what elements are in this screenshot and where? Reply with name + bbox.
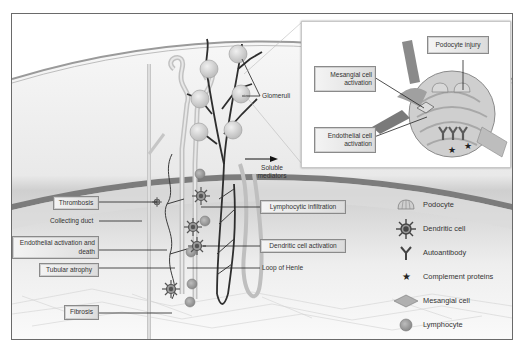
legend-item-complement-proteins: Complement proteins (423, 272, 493, 281)
dendritic-cell-activation-text: Dendritic cell activation (269, 242, 336, 250)
label-dendritic-cell-activation: Dendritic cell activation (260, 239, 346, 253)
mesangial-cell-activation-text: Mesangial cell activation (318, 71, 372, 87)
label-soluble-mediators: Soluble mediators (252, 164, 292, 180)
legend-item-podocyte: Podocyte (423, 200, 454, 209)
endothelial-activation-death-text: Endothelial activation and death (16, 239, 95, 255)
label-lymphocytic-infiltration: Lymphocytic infiltration (260, 200, 346, 214)
label-endothelial-activation-death: Endothelial activation and death (12, 236, 99, 259)
glomerulus-inset-panel: ★ ★ Podocyte injury Mesangial cell activ… (301, 21, 511, 168)
legend-item-dendritic-cell: Dendritic cell (423, 224, 465, 233)
diagram-frame: ★ ★ ★ (11, 13, 513, 340)
legend-label: Mesangial cell (423, 296, 470, 305)
svg-text:★: ★ (448, 145, 456, 155)
label-mesangial-cell-activation: Mesangial cell activation (314, 66, 376, 92)
svg-text:★: ★ (402, 271, 411, 282)
thrombosis-text: Thrombosis (59, 199, 93, 207)
label-endothelial-cell-activation: Endothelial cell activation (314, 127, 376, 153)
legend-label: Autoantibody (423, 248, 466, 257)
legend-item-mesangial-cell: Mesangial cell (423, 296, 470, 305)
label-tubular-atrophy: Tubular atrophy (39, 263, 99, 277)
legend-label: Dendritic cell (423, 224, 465, 233)
legend-label: Lymphocyte (423, 320, 463, 329)
label-podocyte-injury: Podocyte injury (427, 36, 489, 54)
legend-item-autoantibody: Autoantibody (423, 248, 466, 257)
label-loop-of-henle: Loop of Henle (262, 264, 303, 272)
legend-item-lymphocyte: Lymphocyte (423, 320, 463, 329)
lymphocytic-infiltration-text: Lymphocytic infiltration (270, 203, 336, 211)
label-collecting-duct: Collecting duct (50, 217, 93, 225)
endothelial-cell-activation-text: Endothelial cell activation (318, 132, 372, 148)
tubular-atrophy-text: Tubular atrophy (46, 266, 92, 274)
label-thrombosis: Thrombosis (53, 196, 99, 210)
label-glomeruli: Glomeruli (262, 92, 290, 100)
svg-text:★: ★ (464, 141, 472, 151)
podocyte-injury-text: Podocyte injury (435, 41, 480, 49)
fibrosis-text: Fibrosis (70, 308, 93, 316)
legend-label: Complement proteins (423, 272, 493, 281)
label-fibrosis: Fibrosis (64, 305, 99, 320)
legend-label: Podocyte (423, 200, 454, 209)
